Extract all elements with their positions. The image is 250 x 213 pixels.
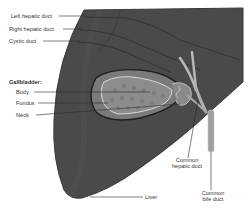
label-cystic-duct: Cystic duct	[9, 38, 36, 44]
common-bile-duct	[208, 110, 214, 152]
label-common-hepatic-duct: Common hepatic duct	[166, 157, 208, 169]
label-gallbladder-heading: Gallbladder:	[9, 79, 42, 85]
label-liver: Liver	[145, 194, 157, 200]
label-left-hepatic-duct: Left hepatic duct	[11, 13, 52, 19]
label-common-hepatic-duct-line2: hepatic duct	[166, 163, 208, 169]
label-common-bile-duct: Common bile duct	[196, 190, 230, 202]
label-right-hepatic-duct: Right hepatic duct	[9, 26, 54, 32]
label-common-bile-duct-line2: bile duct	[196, 196, 230, 202]
label-fundus: Fundus	[16, 100, 35, 106]
label-body: Body	[16, 89, 29, 95]
label-neck: Neck	[16, 112, 29, 118]
